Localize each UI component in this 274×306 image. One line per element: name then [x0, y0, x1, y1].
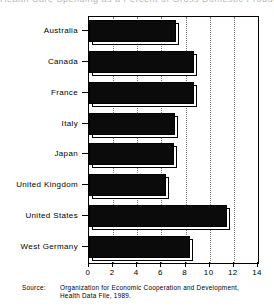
x-tick-label-14: 14 — [252, 268, 262, 278]
source-label: Source: — [22, 284, 60, 292]
x-tick-label-4: 4 — [134, 268, 139, 278]
category-label-japan: Japan — [54, 149, 78, 158]
category-tick — [82, 61, 88, 62]
x-tick-label-12: 12 — [228, 268, 238, 278]
category-tick — [82, 246, 88, 247]
x-tick-label-2: 2 — [110, 268, 115, 278]
x-tick-label-0: 0 — [86, 268, 91, 278]
bar-face — [89, 82, 194, 104]
category-label-united-kingdom: United Kingdom — [16, 180, 78, 189]
category-axis: AustraliaCanadaFranceItalyJapanUnited Ki… — [0, 16, 86, 262]
category-tick — [82, 123, 88, 124]
source-text: Organization for Economic Cooperation an… — [60, 284, 256, 300]
bar-face — [89, 143, 174, 165]
category-tick — [82, 215, 88, 216]
category-label-italy: Italy — [62, 118, 78, 127]
value-axis: 02468101214 — [88, 262, 258, 280]
bar-face — [89, 205, 227, 227]
category-label-west-germany: West Germany — [21, 241, 78, 250]
x-tick-0 — [88, 262, 89, 267]
x-tick-label-8: 8 — [182, 268, 187, 278]
bar-face — [89, 20, 176, 42]
bar-face — [89, 236, 190, 258]
plot-right-edge — [258, 17, 259, 263]
clipped-title-remnant: Health Care Spending as a Percent of Gro… — [0, 0, 274, 8]
category-label-canada: Canada — [48, 57, 78, 66]
bar-face — [89, 174, 166, 196]
category-label-france: France — [51, 87, 78, 96]
category-label-australia: Australia — [44, 26, 78, 35]
source-note: Source:Organization for Economic Coopera… — [22, 284, 262, 300]
x-tick-8 — [185, 262, 186, 267]
category-tick — [82, 153, 88, 154]
x-tick-6 — [160, 262, 161, 267]
x-tick-4 — [136, 262, 137, 267]
category-tick — [82, 30, 88, 31]
chart-page: Health Care Spending as a Percent of Gro… — [0, 0, 274, 306]
x-tick-label-6: 6 — [158, 268, 163, 278]
x-tick-12 — [233, 262, 234, 267]
x-tick-10 — [209, 262, 210, 267]
category-tick — [82, 184, 88, 185]
plot-area — [88, 16, 259, 264]
bar-face — [89, 113, 175, 135]
bar-series — [89, 17, 258, 263]
category-tick — [82, 92, 88, 93]
clipped-title-text: Health Care Spending as a Percent of Gro… — [0, 0, 274, 4]
x-tick-label-10: 10 — [204, 268, 214, 278]
x-tick-14 — [257, 262, 258, 267]
x-tick-2 — [112, 262, 113, 267]
bar-face — [89, 51, 194, 73]
category-label-united-states: United States — [25, 210, 78, 219]
